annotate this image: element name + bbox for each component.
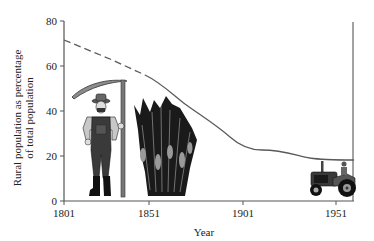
y-axis-title: Rural population as percentage of total …	[11, 50, 35, 187]
x-ticks: 1801 1851 1901 1951	[53, 201, 347, 219]
x-tick-label: 1951	[325, 207, 347, 219]
y-tick-label: 0	[52, 195, 58, 207]
x-tick-label: 1901	[232, 207, 254, 219]
tractor-illustration	[310, 161, 356, 197]
x-axis-title: Year	[194, 226, 215, 238]
scythe-pole-icon	[121, 80, 125, 197]
rural-population-chart: Rural population as percentage of total …	[0, 0, 374, 241]
farmer-with-scythe-illustration	[72, 80, 127, 197]
x-tick-label: 1851	[138, 207, 160, 219]
dashed-estimate-line	[64, 40, 145, 75]
y-tick-label: 80	[46, 15, 58, 27]
y-tick-label: 60	[46, 60, 58, 72]
wheat-sheaf-illustration	[134, 96, 197, 196]
y-tick-label: 20	[46, 150, 58, 162]
x-tick-label: 1801	[53, 207, 75, 219]
y-ticks: 0 20 40 60 80	[46, 15, 64, 207]
y-axis-title-line2: of total population	[23, 77, 35, 159]
y-tick-label: 40	[46, 105, 58, 117]
y-axis-title-line1: Rural population as percentage	[11, 50, 23, 187]
hat-icon	[96, 94, 106, 101]
